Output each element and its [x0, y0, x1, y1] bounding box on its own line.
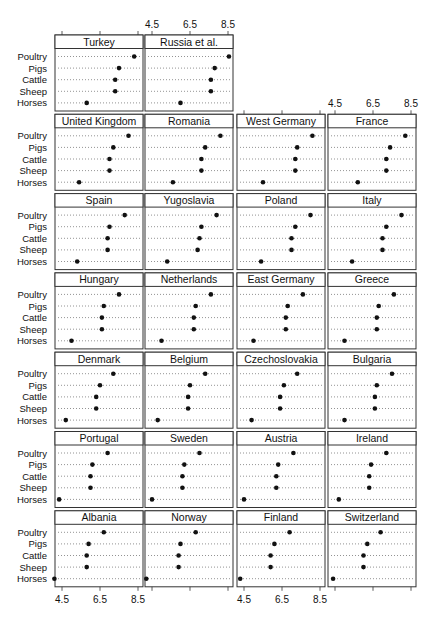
data-point-sheep	[289, 248, 294, 253]
data-point-cattle	[105, 236, 110, 241]
panel-france: France	[328, 114, 416, 190]
category-label-poultry: Poultry	[17, 368, 47, 379]
panel-hungary: Hungary	[55, 273, 143, 349]
data-point-sheep	[284, 327, 289, 332]
category-label-horses: Horses	[17, 97, 47, 108]
data-point-cattle	[274, 474, 279, 479]
panel-russia-et-al: Russia et al.	[145, 35, 233, 111]
category-label-cattle: Cattle	[22, 74, 47, 85]
panel-title: Greece	[355, 273, 390, 285]
data-point-horses	[69, 339, 74, 344]
bottom-axis-tick-label: 4.5	[55, 594, 69, 605]
category-label-horses: Horses	[17, 177, 47, 188]
category-label-pigs: Pigs	[29, 459, 48, 470]
data-point-sheep	[195, 248, 200, 253]
data-point-poultry	[291, 451, 296, 456]
data-point-sheep	[94, 406, 99, 411]
data-point-cattle	[100, 315, 105, 320]
panel-denmark: Denmark	[55, 352, 143, 428]
panel-title: West Germany	[246, 115, 317, 127]
bottom-axis-tick-label: 6.5	[93, 594, 107, 605]
data-point-poultry	[122, 213, 127, 218]
panel-greece: Greece	[328, 273, 416, 349]
data-point-sheep	[375, 327, 380, 332]
bottom-axis-tick-label: 8.5	[313, 594, 327, 605]
data-point-pigs	[276, 462, 281, 467]
panel-turkey: Turkey	[55, 35, 143, 111]
data-point-horses	[64, 418, 69, 423]
data-point-poultry	[117, 292, 122, 297]
data-point-horses	[144, 576, 149, 581]
top-axis-tick-label: 6.5	[183, 19, 197, 30]
data-point-horses	[331, 576, 336, 581]
category-label-cattle: Cattle	[22, 471, 47, 482]
data-point-horses	[259, 259, 264, 264]
data-point-pigs	[178, 542, 183, 547]
data-point-pigs	[117, 66, 122, 71]
panel-title: Turkey	[83, 36, 115, 48]
data-point-sheep	[192, 327, 197, 332]
data-point-pigs	[365, 542, 370, 547]
data-point-horses	[84, 101, 89, 106]
panel-west-germany: West Germany	[237, 114, 325, 190]
data-point-cattle	[197, 236, 202, 241]
data-point-horses	[165, 259, 170, 264]
top-axis-tick-label: 8.5	[221, 19, 235, 30]
category-label-sheep: Sheep	[20, 324, 47, 335]
data-point-pigs	[193, 304, 198, 309]
category-label-sheep: Sheep	[20, 244, 47, 255]
panel-east-germany: East Germany	[237, 273, 325, 349]
panel-title: Belgium	[170, 353, 208, 365]
category-label-horses: Horses	[17, 494, 47, 505]
data-point-cattle	[88, 474, 93, 479]
panel-title: Switzerland	[345, 511, 399, 523]
panel-norway: Norway	[144, 511, 233, 587]
data-point-sheep	[113, 89, 118, 94]
category-label-pigs: Pigs	[29, 63, 48, 74]
data-point-horses	[57, 497, 62, 502]
data-point-cattle	[284, 315, 289, 320]
data-point-pigs	[384, 224, 389, 229]
panel-title: Ireland	[356, 432, 388, 444]
panel-title: United Kingdom	[62, 115, 137, 127]
category-label-sheep: Sheep	[20, 165, 47, 176]
data-point-sheep	[361, 565, 366, 570]
panel-title: Yugoslavia	[164, 194, 215, 206]
panel-title: Sweden	[170, 432, 208, 444]
data-point-cattle	[293, 157, 298, 162]
data-point-cattle	[384, 157, 389, 162]
panel-united-kingdom: United Kingdom	[55, 114, 143, 190]
panel-czechoslovakia: Czechoslovakia	[237, 352, 325, 428]
panel-title: Romania	[168, 115, 210, 127]
panel-title: Austria	[265, 432, 298, 444]
data-point-sheep	[367, 486, 372, 491]
data-point-poultry	[193, 530, 198, 535]
data-point-pigs	[282, 383, 287, 388]
panel-title: Finland	[264, 511, 299, 523]
category-label-sheep: Sheep	[20, 562, 47, 573]
data-point-pigs	[111, 145, 116, 150]
bottom-axis-tick-label: 8.5	[131, 594, 145, 605]
data-point-cattle	[94, 395, 99, 400]
category-label-horses: Horses	[17, 415, 47, 426]
data-point-pigs	[388, 145, 393, 150]
data-point-poultry	[126, 134, 131, 139]
panel-albania: Albania	[52, 511, 143, 587]
data-point-sheep	[373, 406, 378, 411]
category-label-poultry: Poultry	[17, 130, 47, 141]
data-point-poultry	[392, 292, 397, 297]
panel-ireland: Ireland	[328, 432, 416, 508]
data-point-poultry	[399, 213, 404, 218]
panel-austria: Austria	[237, 432, 325, 508]
data-point-sheep	[278, 406, 283, 411]
category-label-cattle: Cattle	[22, 233, 47, 244]
category-label-sheep: Sheep	[20, 482, 47, 493]
data-point-cattle	[380, 236, 385, 241]
data-point-horses	[249, 418, 254, 423]
data-point-poultry	[295, 371, 300, 376]
category-label-cattle: Cattle	[22, 550, 47, 561]
data-point-poultry	[287, 530, 292, 535]
bottom-axis-tick-label: 4.5	[237, 594, 251, 605]
data-point-pigs	[293, 224, 298, 229]
data-point-pigs	[369, 462, 374, 467]
